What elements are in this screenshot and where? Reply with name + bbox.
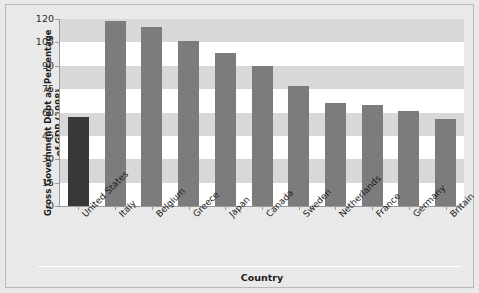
y-axis-tick [55, 136, 59, 137]
bar-slot [427, 19, 464, 206]
y-axis-tick-label: 105 [26, 37, 54, 47]
bar-slot [317, 19, 354, 206]
bar-slot [391, 19, 428, 206]
y-axis-tick [55, 113, 59, 114]
x-axis-tick [409, 206, 410, 210]
y-axis-tick-labels: 0153045607590105120 [18, 0, 54, 293]
y-axis-tick-label: 120 [26, 14, 54, 24]
y-axis-line [59, 19, 60, 207]
y-axis-tick [55, 66, 59, 67]
y-axis-tick [55, 19, 59, 20]
x-axis-tick [335, 206, 336, 210]
bar-slot [207, 19, 244, 206]
x-axis-tick [262, 206, 263, 210]
bar-slot [280, 19, 317, 206]
y-axis-tick-label: 15 [26, 178, 54, 188]
y-axis-tick [55, 42, 59, 43]
x-axis-tick [152, 206, 153, 210]
y-axis-tick-label: 45 [26, 131, 54, 141]
bar[interactable] [68, 117, 89, 206]
x-axis-tick [189, 206, 190, 210]
y-axis-tick-label: 30 [26, 154, 54, 164]
y-axis-tick-label: 60 [26, 108, 54, 118]
x-axis-tick [299, 206, 300, 210]
x-axis-tick [78, 206, 79, 210]
y-axis-tick-label: 75 [26, 84, 54, 94]
x-axis-tick [115, 206, 116, 210]
bar[interactable] [288, 86, 309, 206]
x-axis-tick [372, 206, 373, 210]
y-axis-tick [55, 206, 59, 207]
bar[interactable] [398, 111, 419, 206]
bar[interactable] [252, 66, 273, 206]
bar[interactable] [215, 53, 236, 206]
y-axis-tick [55, 89, 59, 90]
y-axis-tick-label: 90 [26, 61, 54, 71]
x-title-divider [38, 266, 462, 267]
bar-slot [170, 19, 207, 206]
y-axis-tick [55, 159, 59, 160]
y-axis-tick [55, 183, 59, 184]
x-axis-tick [225, 206, 226, 210]
y-axis-tick-label: 0 [26, 201, 54, 211]
x-axis-title: Country [60, 272, 464, 283]
x-axis-tick [446, 206, 447, 210]
chart-figure: Gross Government Debt as Percentage of G… [0, 0, 479, 293]
x-axis-tick-labels: United StatesItalyBelgiumGreeceJapanCana… [60, 212, 464, 270]
bar[interactable] [178, 41, 199, 206]
bar[interactable] [141, 27, 162, 206]
bar-slot [133, 19, 170, 206]
bar-slot [244, 19, 281, 206]
bar-slot [60, 19, 97, 206]
